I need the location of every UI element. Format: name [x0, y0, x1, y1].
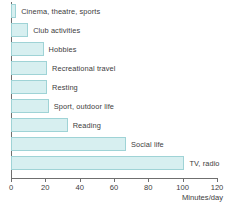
x-tick	[11, 178, 12, 182]
bar-hobbies	[11, 42, 44, 56]
x-tick	[183, 178, 184, 182]
x-tick	[114, 178, 115, 182]
bar-label: Reading	[73, 121, 101, 130]
x-axis-title: Minutes/day	[182, 193, 223, 202]
bar-label: TV, radio	[189, 159, 219, 168]
bar-sport-outdoor-life	[11, 99, 49, 113]
bar-social-life	[11, 137, 126, 151]
x-tick-label: 20	[41, 183, 49, 192]
x-tick-label: 80	[144, 183, 152, 192]
bar-club-activities	[11, 23, 28, 37]
x-tick-label: 40	[75, 183, 83, 192]
x-tick	[45, 178, 46, 182]
x-tick-label: 100	[176, 183, 189, 192]
bar-label: Cinema, theatre, sports	[21, 7, 100, 16]
bar-label: Hobbies	[49, 45, 77, 54]
x-tick-label: 120	[211, 183, 224, 192]
bar-label: Resting	[52, 83, 78, 92]
x-tick-label: 0	[9, 183, 13, 192]
x-tick	[148, 178, 149, 182]
bar-recreational-travel	[11, 61, 47, 75]
bar-chart: Cinema, theatre, sports Club activities …	[0, 0, 231, 206]
plot-area: Cinema, theatre, sports Club activities …	[11, 2, 217, 178]
x-tick	[80, 178, 81, 182]
bar-cinema-theatre-sports	[11, 4, 16, 18]
bar-label: Recreational travel	[52, 64, 116, 73]
x-tick-label: 60	[110, 183, 118, 192]
bar-label: Club activities	[33, 26, 80, 35]
bar-reading	[11, 118, 68, 132]
bar-label: Sport, outdoor life	[54, 102, 114, 111]
bar-resting	[11, 80, 47, 94]
bar-tv-radio	[11, 156, 184, 170]
x-tick	[217, 178, 218, 182]
bar-label: Social life	[131, 140, 164, 149]
